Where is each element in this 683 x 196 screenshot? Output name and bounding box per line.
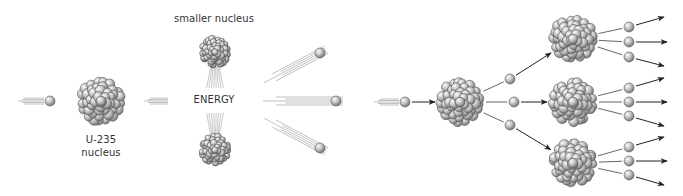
gen2-neutron (624, 142, 634, 152)
nucleon-ball (212, 49, 218, 55)
gen1-neutron (509, 97, 519, 107)
gen2-nucleus (549, 139, 597, 187)
nucleon-ball (212, 147, 218, 153)
gen2-emission-line (599, 161, 622, 162)
gen1-neutron (505, 74, 515, 84)
gen2-nucleus (548, 78, 596, 127)
incoming-neutron (45, 96, 55, 106)
incoming-neutron-trail (18, 98, 44, 104)
nucleon-ball (568, 158, 578, 168)
smaller-nucleus-bottom (199, 133, 230, 166)
arrow-to-gen2-nucleus (516, 129, 551, 150)
chain-incoming-neutron (400, 97, 410, 107)
outgoing-neutron-arrow (636, 177, 664, 185)
nucleon-ball (568, 34, 578, 44)
smaller-nucleus-top (200, 35, 231, 68)
gen1-neutron (505, 120, 515, 130)
energy-label: ENERGY (184, 94, 244, 106)
gen2-neutron (624, 83, 634, 93)
gen2-emission-line (598, 168, 622, 173)
nuclear-fission-diagram (0, 0, 683, 196)
u235-nucleus (77, 77, 125, 125)
outgoing-neutron-arrow (636, 118, 664, 126)
nucleon-ball (568, 97, 578, 107)
gen2-neutron (624, 97, 634, 107)
outgoing-neutron-arrow (636, 17, 664, 25)
gen2-emission-line (598, 149, 622, 156)
smaller-nucleus-label: smaller nucleus (164, 13, 264, 25)
arrow-to-gen2-nucleus (516, 53, 551, 75)
outgoing-neutron-arrow (636, 78, 664, 86)
gen2-neutron (624, 22, 634, 32)
released-neutron (315, 48, 325, 58)
nucleon-ball (455, 97, 465, 107)
gen2-nucleus (549, 15, 598, 62)
gen1-emission-line (484, 82, 504, 91)
gen2-neutron (624, 170, 634, 180)
first-chain-nucleus (436, 78, 484, 127)
chain-reaction-panel (374, 15, 667, 186)
gen2-neutron (624, 156, 634, 166)
gen2-emission-line (598, 90, 622, 96)
gen2-neutron (624, 111, 634, 121)
gen2-emission-line (598, 28, 622, 33)
nucleon-ball (96, 96, 106, 106)
gen2-emission-line (599, 40, 622, 41)
chain-incoming-trail (374, 99, 399, 105)
gen2-neutron (624, 37, 634, 47)
gen2-emission-line (598, 47, 623, 55)
released-neutron (331, 96, 341, 106)
post-split-trail (144, 98, 168, 104)
u235-label: U-235 (76, 134, 126, 146)
outgoing-neutron-arrow (636, 59, 664, 66)
outgoing-neutron-arrow (636, 137, 664, 145)
gen1-emission-line (484, 113, 504, 122)
gen2-neutron (624, 52, 634, 62)
nucleus-label: nucleus (76, 147, 126, 159)
fission-panel (18, 35, 343, 166)
gen2-emission-line (598, 108, 622, 114)
released-neutron (315, 143, 325, 153)
